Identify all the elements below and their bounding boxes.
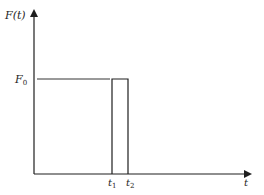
x-axis-label: t [244, 177, 249, 188]
y-axis-label: F(t) [4, 9, 26, 22]
pulse-rectangle [112, 79, 128, 174]
t1-label: t1 [108, 177, 117, 190]
t2-label: t2 [126, 177, 135, 190]
y-axis-arrow-icon [30, 9, 38, 17]
f0-label: F0 [14, 73, 27, 87]
force-pulse-diagram: F(t) F0 t1 t2 t [0, 0, 264, 195]
